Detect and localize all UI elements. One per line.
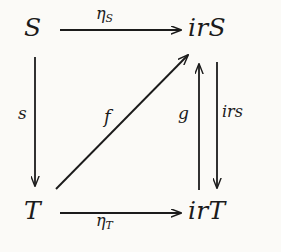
edge-label-f: f	[104, 108, 111, 126]
node-irt: irT	[188, 198, 226, 223]
edge-label-g: g	[178, 105, 189, 122]
edge-label-irs: irs	[222, 104, 243, 120]
edge-label-eta-t: ηT	[96, 213, 113, 232]
commutative-diagram: S irS T irT ηS ηT s f g irs	[0, 0, 281, 252]
diagram-arrows	[0, 0, 281, 252]
node-t: T	[24, 198, 41, 223]
eta-t-base: η	[96, 211, 106, 230]
node-irs: irS	[188, 15, 226, 40]
arrow-f	[56, 55, 188, 189]
eta-s-base: η	[96, 4, 106, 23]
eta-t-subscript: T	[106, 219, 113, 232]
edge-label-s: s	[18, 105, 27, 122]
edge-label-eta-s: ηS	[96, 6, 113, 25]
node-s: S	[24, 15, 41, 40]
eta-s-subscript: S	[106, 12, 113, 25]
